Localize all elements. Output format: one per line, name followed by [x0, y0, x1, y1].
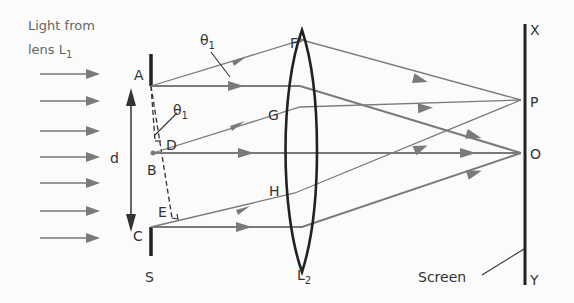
label-p: P: [530, 94, 538, 110]
point-b-dot: [151, 151, 156, 156]
label-d: D: [166, 137, 177, 153]
label-g: G: [268, 107, 279, 123]
label-s: S: [145, 269, 154, 285]
label-lens: L2: [297, 267, 311, 286]
label-c: C: [133, 228, 143, 244]
rays: [151, 40, 521, 227]
screen-pointer: [482, 249, 524, 275]
ray-arrowheads: [228, 57, 483, 232]
incident-light-arrows: [40, 69, 100, 243]
caption-line1: Light from: [28, 18, 95, 33]
label-f: F: [290, 35, 298, 51]
right-angle-mark-e: [172, 214, 178, 219]
label-b: B: [147, 162, 157, 178]
label-d-distance: d: [110, 150, 119, 166]
label-o: O: [530, 146, 541, 162]
label-screen: Screen: [418, 269, 466, 285]
label-h: H: [269, 183, 280, 199]
lens-l2: [286, 30, 318, 272]
label-y: Y: [529, 272, 539, 288]
theta-pointer-upper: [211, 52, 230, 77]
label-x: X: [530, 22, 540, 38]
caption-line2: lens L1: [28, 42, 72, 60]
label-a: A: [134, 67, 144, 83]
label-theta-upper: θ1: [200, 32, 215, 51]
label-theta-lower: θ1: [173, 102, 188, 121]
distance-arrow: [126, 88, 136, 232]
label-e: E: [158, 204, 167, 220]
diffraction-diagram: Light from lens L1: [0, 0, 574, 303]
